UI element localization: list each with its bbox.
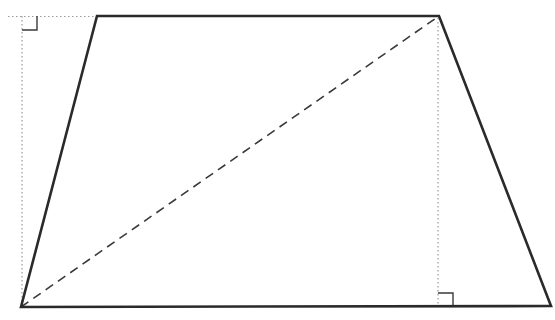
right-angle-mark-bottom-right — [438, 293, 453, 306]
trapezoid-diagram — [0, 0, 555, 320]
diagonal-dashed — [21, 16, 439, 307]
right-angle-mark-top-left — [22, 16, 37, 30]
trapezoid-outline — [21, 16, 551, 307]
